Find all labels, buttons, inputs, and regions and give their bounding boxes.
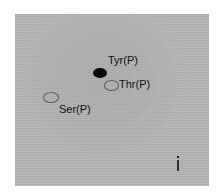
origin-streak bbox=[177, 160, 179, 171]
ser-p-spot bbox=[43, 92, 59, 103]
tlc-plate: Tyr(P) Thr(P) Ser(P) bbox=[15, 14, 209, 186]
thr-p-label: Thr(P) bbox=[119, 79, 150, 90]
tyr-p-label: Tyr(P) bbox=[108, 55, 138, 66]
tyr-p-spot bbox=[93, 68, 107, 78]
origin-dot bbox=[177, 156, 179, 158]
ser-p-label: Ser(P) bbox=[59, 104, 91, 115]
thr-p-spot bbox=[104, 80, 119, 91]
